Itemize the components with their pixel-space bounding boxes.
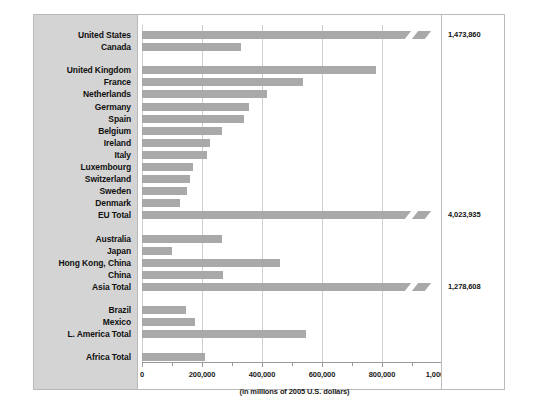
x-axis-tick — [142, 363, 143, 367]
gridline — [322, 25, 323, 363]
gridline — [202, 25, 203, 363]
category-label: Spain — [108, 114, 131, 124]
x-axis-tick — [322, 363, 323, 367]
category-label: Switzerland — [85, 174, 131, 184]
bar — [142, 31, 414, 39]
x-axis-line — [142, 362, 453, 363]
category-label: Luxembourg — [81, 162, 131, 172]
bar — [142, 353, 205, 361]
category-label: L. America Total — [67, 329, 131, 339]
x-axis-minor-tick — [172, 363, 173, 366]
category-label: Asia Total — [92, 282, 131, 292]
category-label: France — [104, 77, 131, 87]
bar — [142, 247, 172, 255]
category-label: EU Total — [98, 210, 131, 220]
category-label: Africa Total — [86, 352, 131, 362]
value-label: 1,278,608 — [448, 282, 480, 291]
plot-area — [142, 15, 447, 363]
category-label: Canada — [101, 42, 131, 52]
category-label: United States — [78, 30, 131, 40]
plot-column: (in millions of 2005 U.S. dollars) 0200,… — [138, 15, 441, 389]
bar — [142, 115, 244, 123]
category-label: Japan — [107, 246, 131, 256]
category-label: Ireland — [104, 138, 131, 148]
bar — [142, 78, 303, 86]
bar — [142, 235, 222, 243]
category-label: Italy — [114, 150, 131, 160]
bar — [142, 259, 280, 267]
x-axis-minor-tick — [352, 363, 353, 366]
x-axis-tick-label: 600,000 — [309, 370, 335, 379]
x-axis-tick-label: 800,000 — [369, 370, 395, 379]
bar — [142, 330, 306, 338]
category-label: Mexico — [103, 317, 131, 327]
bar — [142, 139, 210, 147]
bar — [142, 66, 376, 74]
x-axis-minor-tick — [412, 363, 413, 366]
x-axis-tick-label: 400,000 — [249, 370, 275, 379]
gridline — [382, 25, 383, 363]
bar — [142, 199, 180, 207]
gridline — [262, 25, 263, 363]
bar — [142, 283, 414, 291]
category-label: United Kingdom — [67, 65, 131, 75]
bar — [142, 90, 267, 98]
x-axis-tick — [262, 363, 263, 367]
category-label: China — [108, 270, 131, 280]
bar — [142, 127, 222, 135]
bar — [142, 163, 193, 171]
value-label: 4,023,935 — [448, 210, 480, 219]
bar — [142, 43, 241, 51]
bar — [142, 187, 187, 195]
category-label: Brazil — [108, 305, 131, 315]
category-label: Netherlands — [83, 89, 131, 99]
value-label: 1,473,860 — [448, 30, 480, 39]
bar — [142, 318, 195, 326]
category-label: Australia — [96, 234, 131, 244]
category-label: Denmark — [95, 198, 131, 208]
category-label: Sweden — [99, 186, 131, 196]
axis-subtitle: (in millions of 2005 U.S. dollars) — [142, 387, 447, 396]
x-axis-tick-label: 0 — [140, 370, 144, 379]
x-axis-tick — [202, 363, 203, 367]
x-axis-tick-label: 200,000 — [189, 370, 215, 379]
bar — [142, 151, 207, 159]
bar — [142, 271, 223, 279]
x-axis-tick — [382, 363, 383, 367]
bar — [142, 306, 186, 314]
category-label: Germany — [95, 102, 131, 112]
category-label-panel: United StatesCanadaUnited KingdomFranceN… — [34, 15, 138, 389]
category-label: Hong Kong, China — [58, 258, 131, 268]
bar — [142, 175, 190, 183]
value-label-panel: 1,473,8604,023,9351,278,608 — [441, 15, 504, 389]
x-axis-minor-tick — [232, 363, 233, 366]
chart-frame: United StatesCanadaUnited KingdomFranceN… — [33, 14, 505, 390]
category-label: Belgium — [98, 126, 131, 136]
x-axis-minor-tick — [292, 363, 293, 366]
bar — [142, 103, 249, 111]
bar — [142, 211, 414, 219]
